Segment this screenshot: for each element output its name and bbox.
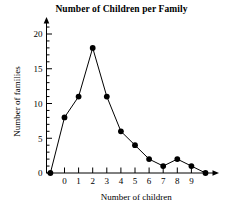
- x-axis-tick-label: 2: [90, 176, 95, 186]
- y-axis-tick-label: 0: [38, 168, 43, 178]
- y-axis-arrow-icon: [44, 17, 50, 24]
- data-point-marker: [160, 163, 166, 169]
- x-axis-tick-label: 5: [133, 176, 138, 186]
- y-axis-tick-label: 10: [34, 99, 44, 109]
- x-axis-tick-label: 7: [161, 176, 166, 186]
- x-axis-tick-label: 4: [119, 176, 124, 186]
- data-point-marker: [104, 94, 110, 100]
- x-axis-arrow-icon: [213, 170, 220, 176]
- data-point-marker: [174, 156, 180, 162]
- data-point-marker: [189, 163, 195, 169]
- data-point-marker: [76, 94, 82, 100]
- x-axis-tick-label: 0: [62, 176, 67, 186]
- data-point-marker: [90, 45, 96, 51]
- chart-figure: Number of Children per Family 0510152001…: [0, 0, 243, 220]
- data-point-marker: [62, 115, 68, 121]
- data-point-marker: [203, 170, 209, 176]
- data-point-marker: [48, 170, 54, 176]
- data-point-marker: [132, 142, 138, 148]
- data-point-marker: [146, 156, 152, 162]
- x-axis-tick-label: 9: [189, 176, 194, 186]
- y-axis-tick-label: 15: [34, 64, 44, 74]
- y-axis-tick-label: 20: [34, 29, 44, 39]
- x-axis-tick-label: 6: [147, 176, 152, 186]
- series-line-number-of-families: [50, 48, 205, 173]
- chart-plot-area: 051015200123456789Number of childrenNumb…: [0, 0, 243, 220]
- y-axis-label: Number of families: [12, 66, 22, 137]
- x-axis-tick-label: 1: [76, 176, 81, 186]
- x-axis-tick-label: 8: [175, 176, 180, 186]
- x-axis-label: Number of children: [101, 192, 172, 202]
- x-axis-tick-label: 3: [105, 176, 110, 186]
- y-axis-tick-label: 5: [38, 134, 43, 144]
- data-point-marker: [118, 128, 124, 134]
